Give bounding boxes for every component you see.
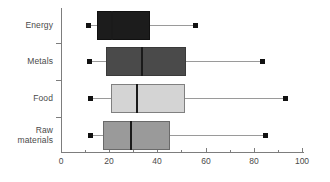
box-plot-chart: Energy Metals Food Raw materials 0 20 40… [0, 0, 330, 182]
box-metals [106, 47, 186, 76]
x-axis-tick-90 [278, 150, 279, 153]
whisker-cap-min-metals [87, 59, 92, 64]
x-tick-label-60: 60 [191, 156, 221, 166]
x-tick-label-20: 20 [94, 156, 124, 166]
x-tick-label-40: 40 [142, 156, 172, 166]
plot-surface: Energy Metals Food Raw materials 0 20 40… [0, 0, 330, 182]
x-axis-tick-50 [181, 150, 182, 153]
whisker-cap-max-energy [193, 23, 198, 28]
x-axis-tick-30 [133, 150, 134, 153]
category-label-energy: Energy [0, 20, 53, 30]
box-energy [97, 11, 150, 40]
x-axis-tick-0 [61, 148, 62, 153]
whisker-cap-max-food [283, 96, 288, 101]
median-line-metals [141, 47, 143, 76]
whisker-cap-min-food [88, 96, 93, 101]
median-line-raw-materials [130, 121, 132, 150]
category-label-metals: Metals [0, 56, 53, 66]
x-tick-label-80: 80 [239, 156, 269, 166]
whisker-cap-min-raw-materials [88, 133, 93, 138]
x-axis-line [61, 152, 304, 153]
category-label-raw-materials: Raw materials [0, 125, 53, 145]
median-line-food [136, 84, 138, 113]
x-axis-tick-100 [302, 148, 303, 153]
box-raw-materials [103, 121, 170, 150]
category-label-food: Food [0, 93, 53, 103]
whisker-cap-max-metals [260, 59, 265, 64]
y-axis-tick [56, 80, 61, 81]
median-line-energy [111, 11, 113, 40]
y-axis-tick [56, 117, 61, 118]
x-axis-tick-70 [230, 150, 231, 153]
x-axis-tick-80 [254, 148, 255, 153]
whisker-cap-max-raw-materials [263, 133, 268, 138]
x-axis-tick-60 [206, 148, 207, 153]
whisker-cap-min-energy [86, 23, 91, 28]
x-tick-label-0: 0 [46, 156, 76, 166]
box-food [111, 84, 185, 113]
x-axis-tick-10 [85, 150, 86, 153]
x-tick-label-100: 100 [287, 156, 317, 166]
y-axis-tick [56, 43, 61, 44]
